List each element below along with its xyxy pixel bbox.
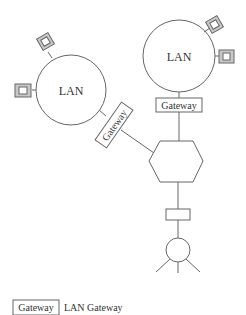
device-right-top xyxy=(204,16,223,34)
lan-right: LAN xyxy=(143,20,215,92)
terminal-node xyxy=(166,238,190,262)
lan-left: LAN xyxy=(36,55,106,125)
backbone-hexagon xyxy=(149,141,203,182)
legend: Gateway LAN Gateway xyxy=(13,300,123,315)
gateway-right: Gateway xyxy=(156,98,202,112)
small-gateway-box xyxy=(166,209,190,220)
gateway-right-label: Gateway xyxy=(161,100,197,111)
legend-symbol-label: Gateway xyxy=(18,302,54,313)
lan-right-label: LAN xyxy=(167,50,192,64)
legend-description: LAN Gateway xyxy=(64,302,123,313)
network-diagram: LAN LAN Gateway Gateway xyxy=(0,0,246,315)
device-right-side xyxy=(215,50,234,63)
device-left-top xyxy=(37,33,55,58)
device-left-side xyxy=(15,84,36,97)
lan-left-label: LAN xyxy=(59,84,84,98)
